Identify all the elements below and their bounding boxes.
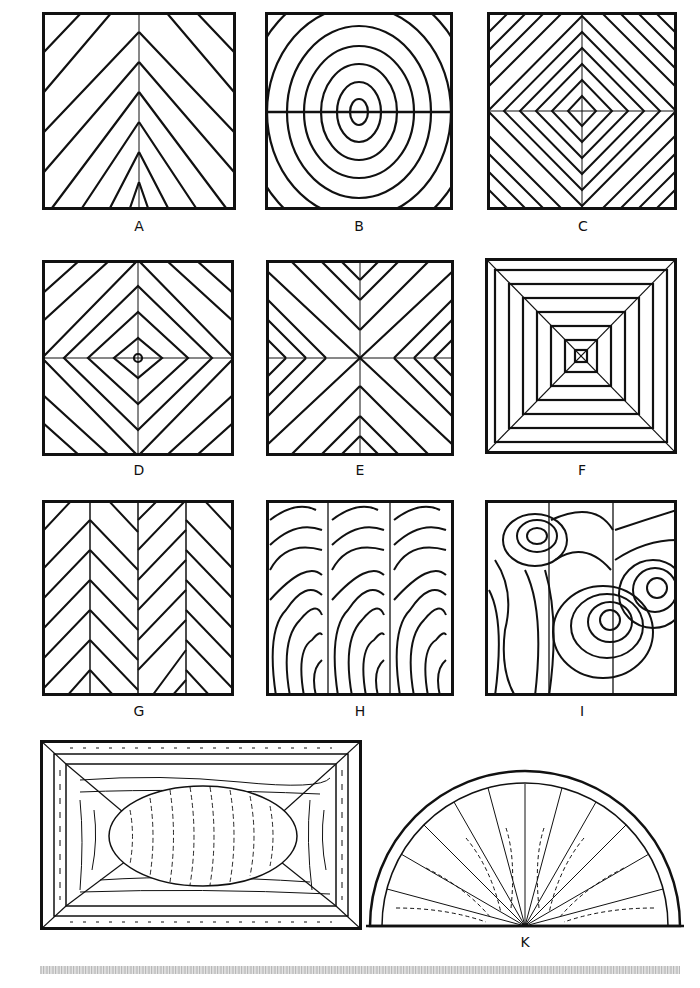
panel-k	[366, 768, 684, 928]
panel-e	[266, 260, 454, 456]
oval-panel-figure	[40, 740, 362, 930]
panel-a	[42, 12, 236, 210]
concentric-square-figure	[485, 258, 677, 454]
panel-g	[42, 500, 234, 696]
label-f: F	[567, 462, 597, 478]
oval-rings-figure	[265, 12, 453, 210]
chevron-grain-figure	[42, 12, 236, 210]
label-d: D	[124, 462, 154, 478]
sunburst-figure	[366, 768, 684, 928]
panel-f	[485, 258, 677, 454]
herringbone-figure	[42, 500, 234, 696]
slip-match-figure	[266, 500, 454, 696]
scan-edge-strip	[40, 966, 680, 974]
reverse-diamond-figure	[266, 260, 454, 456]
panel-c	[487, 12, 677, 210]
label-i: I	[567, 703, 597, 719]
label-e: E	[345, 462, 375, 478]
diamond-figure	[42, 260, 234, 456]
panel-b	[265, 12, 453, 210]
burr-figure	[485, 500, 677, 696]
label-h: H	[345, 703, 375, 719]
label-b: B	[344, 218, 374, 234]
label-c: C	[568, 218, 598, 234]
fine-diamond-figure	[487, 12, 677, 210]
label-a: A	[124, 218, 154, 234]
panel-j	[40, 740, 362, 930]
label-g: G	[124, 703, 154, 719]
panel-h	[266, 500, 454, 696]
panel-i	[485, 500, 677, 696]
panel-d	[42, 260, 234, 456]
label-k: K	[510, 934, 540, 950]
